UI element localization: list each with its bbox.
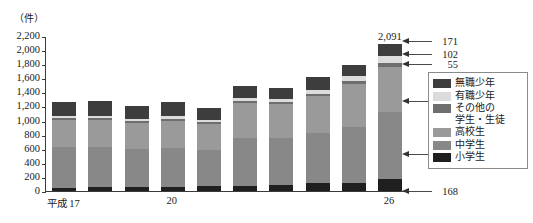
bar-segment-中学生 [197,150,221,186]
y-tick-mark [42,192,46,193]
legend-swatch [433,104,451,113]
bar[interactable] [161,102,185,191]
bar-segment-中学生 [378,112,402,179]
bar-segment-小学生 [161,187,185,191]
x-axis-label: 平成 17 [47,195,80,210]
bar-segment-小学生 [269,185,293,191]
legend-label: 有職少年 [455,90,495,102]
bar-segment-中学生 [88,147,112,187]
chart-legend: 無職少年有職少年その他の 学生・生徒高校生中学生小学生 [428,72,528,169]
y-tick-label: 1,000 [16,115,40,126]
legend-item-4[interactable]: 中学生 [433,139,523,151]
legend-item-1[interactable]: 有職少年 [433,90,523,102]
callout-leader-line [408,64,432,65]
callout-leader-line [408,41,432,42]
legend-swatch [433,128,451,137]
bar-segment-高校生 [125,123,149,150]
bar-segment-無職少年 [161,102,185,116]
callout-shougaku: 168 [408,185,458,197]
bar[interactable]: 2,091 [378,44,402,191]
callout-yushoku: 102 [408,48,458,60]
legend-label: 高校生 [455,126,485,138]
callout-mushoku: 171 [408,35,458,47]
legend-swatch [433,92,451,101]
bar-segment-無職少年 [52,102,76,116]
bar-segment-小学生 [52,188,76,191]
bar-segment-小学生 [125,187,149,191]
y-axis-unit-label: （件） [14,10,44,25]
bar-segment-無職少年 [306,77,330,91]
y-tick-label: 1,600 [16,72,40,83]
bar[interactable] [52,102,76,191]
bar[interactable] [306,76,330,191]
y-tick-label: 2,000 [16,44,40,55]
bar[interactable] [197,108,221,191]
bar-segment-高校生 [342,84,366,127]
y-tick-label: 1,800 [16,58,40,69]
bar-segment-無職少年 [197,108,221,119]
legend-item-3[interactable]: 高校生 [433,126,523,138]
bar-segment-高校生 [52,120,76,148]
callout-value: 168 [436,186,458,197]
legend-label: 無職少年 [455,77,495,89]
callout-value: 171 [436,36,458,47]
bar-segment-小学生 [378,179,402,191]
legend-item-2[interactable]: その他の 学生・生徒 [433,102,523,125]
bar-segment-高校生 [161,121,185,148]
bar-segment-中学生 [233,138,257,186]
stacked-bar-chart: （件） 2,2002,0001,8001,6001,4001,2001,0008… [0,0,533,223]
bar-segment-小学生 [88,187,112,191]
y-tick-label: 0 [35,185,40,196]
legend-label: 中学生 [455,139,485,151]
y-tick-label: 400 [24,157,40,168]
bar[interactable] [233,86,257,191]
bar-segment-無職少年 [125,106,149,119]
bar-group: 2,091 [46,37,407,191]
legend-item-0[interactable]: 無職少年 [433,77,523,89]
bar-segment-高校生 [233,103,257,138]
bar-segment-高校生 [88,120,112,147]
bar[interactable] [125,106,149,191]
bar-segment-高校生 [269,104,293,137]
bar-segment-無職少年 [378,44,402,56]
legend-item-5[interactable]: 小学生 [433,151,523,163]
bar-segment-高校生 [306,96,330,133]
x-axis-label: 20 [166,195,177,206]
callout-leader-line [408,54,432,55]
y-tick-label: 200 [24,171,40,182]
callout-leader-line [408,191,432,192]
bar-segment-無職少年 [269,88,293,99]
y-tick-label: 600 [24,143,40,154]
x-axis-labels: 平成 172026 [45,195,407,215]
bar-segment-中学生 [342,127,366,183]
bar-segment-高校生 [197,124,221,150]
bar-segment-小学生 [306,183,330,191]
y-tick-label: 2,200 [16,30,40,41]
bar[interactable] [269,88,293,191]
bar-segment-無職少年 [342,65,366,77]
x-axis-label: 26 [384,195,395,206]
bar-segment-中学生 [269,138,293,185]
bar-segment-小学生 [197,186,221,191]
bar-segment-無職少年 [88,101,112,116]
bar-segment-無職少年 [233,86,257,98]
bar-segment-小学生 [233,186,257,191]
bar-total-label: 2,091 [378,31,402,42]
callout-value: 55 [436,59,458,70]
bar-segment-中学生 [52,147,76,188]
legend-label: 小学生 [455,151,485,163]
bar-segment-小学生 [342,183,366,191]
bar-segment-中学生 [306,133,330,184]
legend-swatch [433,153,451,162]
legend-swatch [433,141,451,150]
bar[interactable] [342,65,366,191]
y-tick-label: 1,200 [16,100,40,111]
legend-swatch [433,79,451,88]
bar[interactable] [88,101,112,191]
bar-segment-有職少年 [378,56,402,63]
callout-sonota: 55 [408,58,458,70]
y-tick-label: 800 [24,129,40,140]
bar-segment-中学生 [125,149,149,186]
bar-segment-中学生 [161,148,185,187]
y-tick-label: 1,400 [16,86,40,97]
